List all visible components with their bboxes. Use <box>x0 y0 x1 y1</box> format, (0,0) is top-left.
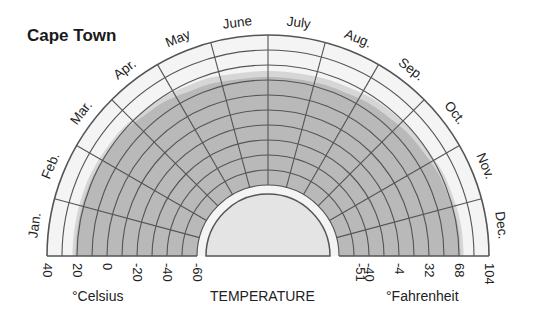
month-label: Nov. <box>474 151 498 181</box>
fahrenheit-tick: -4 <box>392 263 407 275</box>
celsius-tick: 40 <box>40 263 55 277</box>
fahrenheit-tick: 104 <box>482 263 497 285</box>
celsius-tick-labels: 40200-20-40-60 <box>40 263 205 282</box>
celsius-tick: 0 <box>100 263 115 270</box>
celsius-tick: 20 <box>70 263 85 277</box>
celsius-tick: -20 <box>130 263 145 282</box>
month-label: Aug. <box>342 26 373 50</box>
month-label: Feb. <box>38 151 62 182</box>
fahrenheit-tick-labels: -51-40-43268104 <box>353 263 497 285</box>
month-label: Apr. <box>111 56 139 83</box>
fahrenheit-unit-label: °Fahrenheit <box>386 288 459 304</box>
month-label: Dec. <box>492 210 510 239</box>
fahrenheit-tick: -40 <box>362 263 377 282</box>
fahrenheit-tick: 32 <box>422 263 437 277</box>
celsius-tick: -60 <box>190 263 205 282</box>
fahrenheit-tick: 68 <box>452 263 467 277</box>
month-label: Jan. <box>25 212 43 239</box>
celsius-unit-label: °Celsius <box>72 288 124 304</box>
celsius-tick: -40 <box>160 263 175 282</box>
month-label: July <box>286 14 312 32</box>
month-label: Oct. <box>441 98 468 127</box>
temperature-axis-label: TEMPERATURE <box>210 288 315 304</box>
temperature-radial-chart: Cape Town Jan.Feb.Mar.Apr.MayJuneJulyAug… <box>0 0 534 333</box>
chart-title: Cape Town <box>27 26 116 45</box>
month-label: June <box>222 13 253 32</box>
month-label: May <box>163 27 193 51</box>
